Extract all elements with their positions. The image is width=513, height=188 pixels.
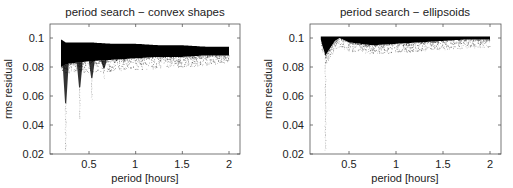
y-tick-label: 0.02 xyxy=(23,148,44,160)
axis-ticks xyxy=(310,24,501,154)
figure: period search − convex shapes 0.1 0.08 0… xyxy=(0,0,513,188)
chart-title: period search − convex shapes xyxy=(65,6,225,18)
y-tick-label: 0.08 xyxy=(283,61,304,73)
x-tick-label: 2 xyxy=(226,158,232,170)
plot-frame xyxy=(310,24,501,154)
scatter-points xyxy=(61,40,230,151)
y-tick-label: 0.1 xyxy=(29,32,44,44)
dense-band xyxy=(321,37,490,56)
x-tick-label: 2 xyxy=(487,158,493,170)
y-tick-label: 0.04 xyxy=(23,119,44,131)
x-axis-label: period [hours] xyxy=(371,172,438,184)
y-tick-label: 0.02 xyxy=(283,148,304,160)
chart-title: period search − ellipsoids xyxy=(340,6,470,18)
x-tick-label: 0.5 xyxy=(341,158,356,170)
y-tick-label: 0.08 xyxy=(23,61,44,73)
x-tick-label: 1.5 xyxy=(174,158,189,170)
scatter-points xyxy=(321,37,491,151)
y-axis-label: rms residual xyxy=(262,59,274,119)
x-axis-label: period [hours] xyxy=(111,172,178,184)
y-tick-label: 0.1 xyxy=(289,32,304,44)
x-tick-label: 1 xyxy=(132,158,138,170)
y-tick-label: 0.04 xyxy=(283,119,304,131)
y-tick-label: 0.06 xyxy=(23,90,44,102)
chart-convex-shapes: period search − convex shapes 0.1 0.08 0… xyxy=(2,6,240,184)
x-tick-label: 1.5 xyxy=(435,158,450,170)
chart-ellipsoids: period search − ellipsoids 0.1 0.08 0.06… xyxy=(262,6,501,184)
y-axis-label: rms residual xyxy=(2,59,14,119)
x-tick-label: 0.5 xyxy=(81,158,96,170)
y-tick-label: 0.06 xyxy=(283,90,304,102)
x-tick-label: 1 xyxy=(393,158,399,170)
